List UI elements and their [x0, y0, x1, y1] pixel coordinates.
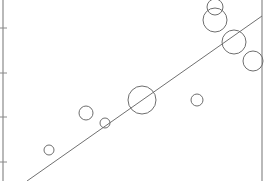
bubble-scatter-chart: [0, 0, 278, 181]
bubble-marker: [191, 94, 203, 106]
regression-line: [27, 16, 262, 181]
bubble-marker: [79, 106, 93, 120]
bubble-marker: [44, 145, 54, 155]
trendline: [27, 16, 262, 181]
bubble-marker: [243, 51, 263, 71]
chart-canvas: [0, 0, 278, 181]
axes: [0, 0, 262, 181]
bubble-marker: [203, 8, 227, 32]
bubble-series: [44, 0, 263, 155]
